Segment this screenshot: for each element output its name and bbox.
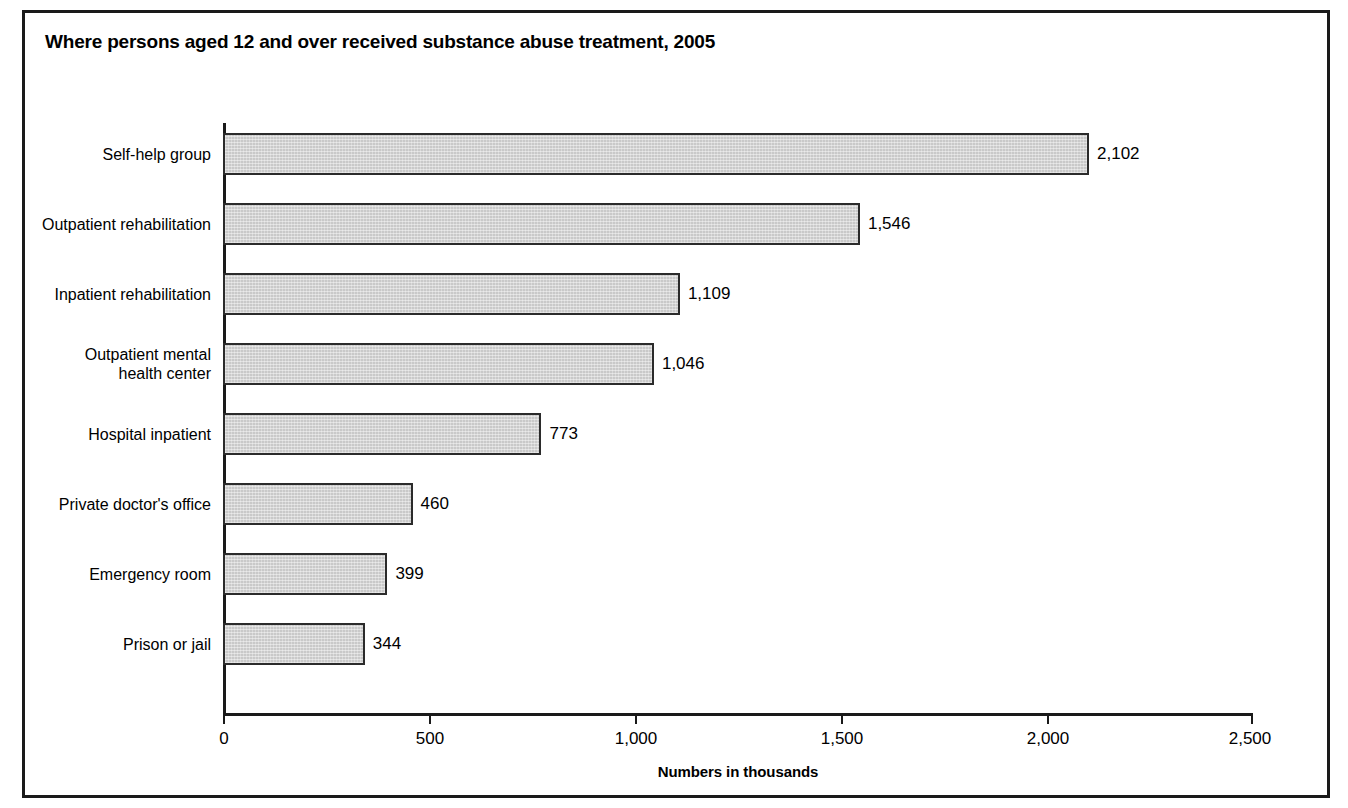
bar[interactable]: [223, 203, 860, 245]
category-label: Emergency room: [0, 565, 211, 584]
x-axis-title: Numbers in thousands: [223, 763, 1253, 780]
plot-area: 0 500 1,000 1,500 2,000 2,500 Self-help …: [223, 123, 1253, 713]
x-tick-label-1500: 1,500: [821, 729, 864, 749]
x-tick-mark-1000: [635, 713, 637, 724]
bar[interactable]: [223, 553, 387, 595]
bar-row: Inpatient rehabilitation1,109: [223, 273, 1253, 315]
bar[interactable]: [223, 413, 541, 455]
x-tick-label-2000: 2,000: [1027, 729, 1070, 749]
bar-value-label: 399: [395, 564, 423, 584]
bar-value-label: 1,046: [662, 354, 705, 374]
x-tick-mark-500: [429, 713, 431, 724]
bar[interactable]: [223, 343, 654, 385]
x-tick-mark-1500: [841, 713, 843, 724]
bar-value-label: 1,546: [868, 214, 911, 234]
bar[interactable]: [223, 273, 680, 315]
bar-value-label: 344: [373, 634, 401, 654]
category-label: Private doctor's office: [0, 495, 211, 514]
x-tick-mark-2500: [1251, 713, 1253, 724]
bar-row: Private doctor's office460: [223, 483, 1253, 525]
bar-row: Hospital inpatient773: [223, 413, 1253, 455]
x-axis-line: [223, 713, 1253, 716]
bar[interactable]: [223, 483, 413, 525]
category-label: Self-help group: [0, 145, 211, 164]
bar-value-label: 773: [549, 424, 577, 444]
bar-row: Emergency room399: [223, 553, 1253, 595]
category-label: Outpatient rehabilitation: [0, 215, 211, 234]
category-label: Inpatient rehabilitation: [0, 285, 211, 304]
x-tick-label-0: 0: [219, 729, 228, 749]
category-label: Prison or jail: [0, 635, 211, 654]
category-label: Outpatient mental health center: [0, 345, 211, 383]
bar[interactable]: [223, 133, 1089, 175]
category-label: Hospital inpatient: [0, 425, 211, 444]
bar-value-label: 2,102: [1097, 144, 1140, 164]
x-tick-label-500: 500: [416, 729, 444, 749]
chart-frame: Where persons aged 12 and over received …: [22, 10, 1330, 798]
bar-value-label: 460: [421, 494, 449, 514]
bar-row: Prison or jail344: [223, 623, 1253, 665]
x-tick-label-2500: 2,500: [1229, 729, 1272, 749]
x-tick-label-1000: 1,000: [615, 729, 658, 749]
bar-row: Outpatient rehabilitation1,546: [223, 203, 1253, 245]
bar[interactable]: [223, 623, 365, 665]
x-tick-mark-0: [223, 713, 225, 724]
chart-title: Where persons aged 12 and over received …: [45, 31, 715, 53]
bar-row: Self-help group2,102: [223, 133, 1253, 175]
x-tick-mark-2000: [1047, 713, 1049, 724]
bar-value-label: 1,109: [688, 284, 731, 304]
bar-row: Outpatient mental health center1,046: [223, 343, 1253, 385]
